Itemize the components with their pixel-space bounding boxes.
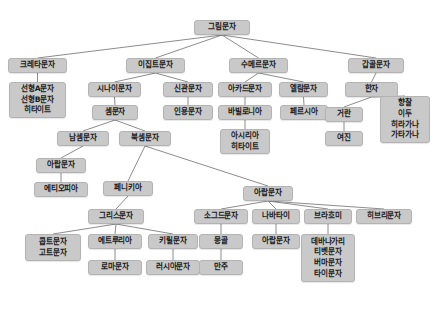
tree-node: 시나이문자: [88, 82, 141, 97]
tree-node-label: 인용문자: [174, 107, 201, 118]
tree-node: 신관문자: [163, 82, 213, 97]
tree-node-label: 바빌로니아: [228, 107, 262, 118]
tree-node-label: 에트루리아: [98, 236, 132, 247]
tree-node-label: 남셈문자: [69, 133, 96, 144]
tree-node: 크레타문자: [8, 58, 67, 73]
tree-node-label: 북셈문자: [131, 133, 158, 144]
tree-node-label: 그리스문자: [99, 211, 133, 222]
tree-node: 키릴문자: [148, 234, 198, 249]
tree-node-label: 브라흐미: [314, 211, 341, 222]
tree-node-label: 향찰: [398, 98, 412, 109]
tree-node-label: 히타이트: [24, 105, 51, 116]
tree-node: 북셈문자: [119, 131, 171, 146]
tree-node: 아시리아히타이트: [220, 129, 270, 154]
tree-node: 그리스문자: [88, 209, 144, 224]
tree-node: 한자: [345, 82, 398, 97]
tree-node-label: 그림문자: [208, 22, 235, 33]
tree-node: 브라흐미: [304, 209, 352, 224]
tree-node-label: 아랍문자: [47, 160, 74, 171]
tree-node-label: 콥트문자: [39, 237, 66, 248]
tree-node-label: 고트문자: [39, 248, 66, 259]
tree-node-label: 선형B문자: [21, 95, 54, 106]
tree-node-label: 데바나가리: [311, 237, 345, 248]
tree-node: 남셈문자: [57, 131, 109, 146]
tree-node: 히브리문자: [356, 209, 412, 224]
tree-node-label: 타이문자: [314, 269, 341, 280]
tree-node-label: 엘람문자: [290, 84, 317, 95]
tree-node-label: 히라가나: [391, 120, 418, 131]
tree-node: 이집트문자: [126, 58, 185, 73]
tree-node: 에트루리아: [88, 234, 142, 249]
tree-node: 갑골문자: [348, 58, 404, 73]
tree-node: 아랍문자: [243, 186, 293, 201]
tree-node-label: 이두: [398, 109, 412, 120]
tree-node-label: 만주: [214, 262, 228, 273]
tree-node: 나바타이: [252, 209, 300, 224]
tree-node-label: 러시아문자: [156, 262, 190, 273]
tree-node-label: 티벳문자: [314, 247, 341, 258]
tree-node: 거란: [325, 107, 363, 122]
tree-node-label: 히브리문자: [367, 211, 401, 222]
tree-node-label: 에티오피아: [44, 184, 78, 195]
tree-node: 셈문자: [92, 105, 138, 120]
tree-node: 향찰이두히라가나가타가나: [380, 96, 430, 143]
tree-node: 데바나가리티벳문자버마문자타이문자: [301, 234, 355, 282]
tree-node-label: 신관문자: [174, 84, 201, 95]
tree-node-label: 가타가나: [391, 130, 418, 141]
tree-node: 페르시아: [280, 105, 328, 120]
tree-node: 수메르문자: [229, 58, 288, 73]
writing-systems-tree-diagram: 그림문자크레타문자이집트문자수메르문자갑골문자선형A문자선형B문자히타이트시나이…: [0, 0, 439, 309]
tree-node-label: 크레타문자: [20, 60, 54, 71]
tree-node: 에티오피아: [34, 182, 88, 197]
tree-node: 아랍문자: [252, 234, 300, 249]
tree-node: 페니키아: [103, 181, 153, 196]
tree-node-label: 키릴문자: [159, 236, 186, 247]
tree-node: 바빌로니아: [218, 105, 272, 120]
tree-node-label: 갑골문자: [362, 60, 389, 71]
tree-node: 몽골: [199, 234, 243, 249]
tree-node-label: 몽골: [214, 236, 228, 247]
tree-node: 선형A문자선형B문자히타이트: [9, 82, 66, 118]
tree-node-label: 아시리아: [231, 131, 258, 142]
tree-node-label: 이집트문자: [138, 60, 172, 71]
tree-node-label: 여진: [337, 133, 351, 144]
tree-node-label: 아카드문자: [228, 84, 262, 95]
tree-node-label: 로마문자: [101, 262, 128, 273]
tree-node-label: 나바타이: [262, 211, 289, 222]
tree-node-label: 페르시아: [290, 107, 317, 118]
tree-node-label: 수메르문자: [241, 60, 275, 71]
tree-node-label: 페니키아: [114, 183, 141, 194]
tree-node: 엘람문자: [279, 82, 328, 97]
tree-node: 아카드문자: [218, 82, 272, 97]
tree-node-label: 소그드문자: [204, 211, 238, 222]
tree-node: 인용문자: [163, 105, 213, 120]
tree-node: 로마문자: [88, 260, 142, 275]
tree-node: 러시아문자: [146, 260, 200, 275]
node-layer: 그림문자크레타문자이집트문자수메르문자갑골문자선형A문자선형B문자히타이트시나이…: [0, 0, 439, 309]
tree-node-label: 거란: [337, 109, 351, 120]
tree-node: 그림문자: [194, 20, 250, 35]
tree-node: 소그드문자: [194, 209, 248, 224]
tree-node-label: 셈문자: [105, 107, 125, 118]
tree-node-label: 시나이문자: [97, 84, 131, 95]
tree-node-label: 버마문자: [314, 258, 341, 269]
tree-node: 여진: [325, 131, 363, 146]
tree-node: 콥트문자고트문자: [25, 234, 81, 261]
tree-node-label: 한자: [365, 84, 379, 95]
tree-node: 만주: [199, 260, 243, 275]
tree-node-label: 히타이트: [231, 142, 258, 153]
tree-node: 아랍문자: [36, 158, 86, 173]
tree-node-label: 선형A문자: [21, 84, 54, 95]
tree-node-label: 아랍문자: [262, 236, 289, 247]
tree-node-label: 아랍문자: [254, 188, 281, 199]
